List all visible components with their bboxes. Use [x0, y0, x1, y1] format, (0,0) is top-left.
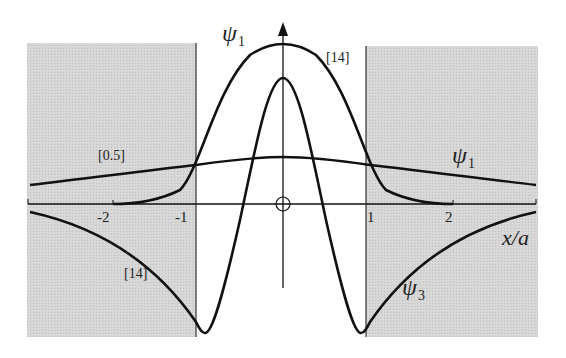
wavefunction-diagram [0, 0, 566, 358]
tick-label-2: 2 [445, 209, 453, 226]
label-psi1-right: ψ1 [452, 142, 475, 172]
y-axis-arrow-icon [278, 22, 288, 36]
tick-label-1: 1 [367, 209, 375, 226]
x-axis-label: x/a [502, 225, 529, 251]
label-scale-14-top: [14] [326, 50, 349, 66]
label-scale-0.5: [0.5] [98, 148, 125, 164]
label-psi3: ψ3 [402, 274, 425, 304]
left-barrier-region [27, 43, 196, 337]
tick-label-minus-2: -2 [97, 209, 110, 226]
label-scale-14-bottom: [14] [124, 266, 147, 282]
label-psi1-top: ψ1 [222, 20, 245, 50]
tick-label-minus-1: -1 [175, 209, 188, 226]
